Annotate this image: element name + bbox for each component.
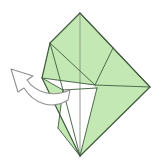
origami-diagram-canvas [0,0,162,168]
origami-figure [0,0,162,168]
